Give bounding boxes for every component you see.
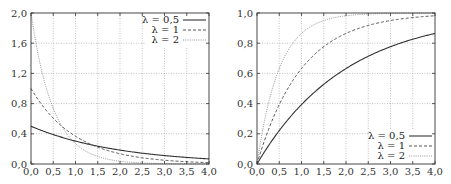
x-tick-label: 1,5 xyxy=(90,166,106,177)
x-tick-label: 4,0 xyxy=(427,166,443,177)
x-tick-label: 1,0 xyxy=(68,166,84,177)
y-tick-label: 0,4 xyxy=(237,98,253,109)
y-tick-label: 1,6 xyxy=(11,38,27,49)
pdf-chart: λ = 0,5λ = 1λ = 20,00,51,01,52,02,53,03,… xyxy=(0,0,225,184)
legend-label: λ = 2 xyxy=(378,150,405,161)
y-tick-label: 0,0 xyxy=(237,159,253,170)
y-tick-label: 0,6 xyxy=(237,68,253,79)
cdf-plot: λ = 0,5λ = 1λ = 20,00,51,01,52,02,53,03,… xyxy=(226,0,451,184)
x-tick-label: 3,5 xyxy=(179,166,195,177)
y-tick-label: 0,0 xyxy=(11,159,27,170)
legend: λ = 0,5λ = 1λ = 2 xyxy=(142,14,208,48)
x-tick-label: 3,0 xyxy=(383,166,399,177)
x-tick-label: 2,0 xyxy=(338,166,354,177)
x-tick-label: 1,5 xyxy=(316,166,332,177)
y-tick-label: 0,8 xyxy=(11,98,27,109)
y-tick-label: 1,0 xyxy=(237,8,253,19)
y-tick-label: 1,2 xyxy=(11,68,27,79)
x-tick-label: 0,5 xyxy=(45,166,61,177)
x-tick-label: 2,0 xyxy=(112,166,128,177)
y-tick-label: 0,4 xyxy=(11,128,27,139)
cdf-chart: λ = 0,5λ = 1λ = 20,00,51,01,52,02,53,03,… xyxy=(226,0,451,184)
legend-label: λ = 2 xyxy=(152,34,179,45)
x-tick-label: 0,5 xyxy=(271,166,287,177)
y-tick-label: 0,2 xyxy=(237,128,253,139)
pdf-plot: λ = 0,5λ = 1λ = 20,00,51,01,52,02,53,03,… xyxy=(0,0,225,184)
legend: λ = 0,5λ = 1λ = 2 xyxy=(368,130,434,164)
y-tick-label: 0,8 xyxy=(237,38,253,49)
x-tick-label: 3,5 xyxy=(405,166,421,177)
x-tick-label: 3,0 xyxy=(157,166,173,177)
x-tick-label: 1,0 xyxy=(294,166,310,177)
x-tick-label: 4,0 xyxy=(201,166,217,177)
x-tick-label: 2,5 xyxy=(134,166,150,177)
y-tick-label: 2,0 xyxy=(11,8,27,19)
x-tick-label: 2,5 xyxy=(360,166,376,177)
